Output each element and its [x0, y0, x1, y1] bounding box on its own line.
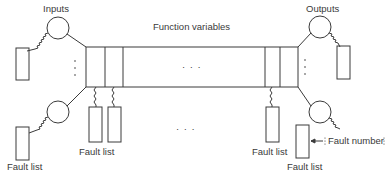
- fault-list-box-left-top: [16, 48, 29, 80]
- inputs-label: Inputs: [43, 4, 69, 14]
- fault-number-label: Fault number: [328, 136, 384, 146]
- fault-list-label-bottom-left: Fault list: [7, 162, 42, 172]
- connector-input-top: [67, 34, 86, 47]
- fault-list-box-middle-1: [89, 107, 102, 142]
- input-node-bottom: [47, 101, 69, 123]
- vertical-ellipsis-left: [74, 60, 76, 76]
- input-node-top: [47, 17, 69, 39]
- ellipsis-bottom: · · ·: [176, 124, 196, 134]
- fault-list-box-middle-2: [108, 107, 121, 142]
- outputs-label: Outputs: [306, 4, 339, 14]
- connector-output-bottom: [298, 87, 311, 106]
- connector-input-bottom: [67, 87, 86, 106]
- connector-output-top: [298, 33, 311, 47]
- arrow-head-icon: [311, 139, 315, 143]
- fault-list-label-bottom-right: Fault list: [287, 162, 322, 172]
- vertical-ellipsis-right: [304, 59, 306, 75]
- fault-list-box-middle-3: [266, 107, 279, 142]
- fault-list-label-middle-right: Fault list: [252, 147, 287, 157]
- fault-list-box-left-bottom: [16, 127, 29, 160]
- fault-list-label-middle-left: Fault list: [79, 147, 114, 157]
- output-node-bottom: [309, 101, 331, 123]
- wavy-link: [112, 87, 114, 107]
- wavy-link: [329, 33, 340, 47]
- wavy-link: [270, 87, 272, 107]
- wavy-link: [29, 117, 48, 133]
- ellipsis-center: · · ·: [182, 62, 202, 72]
- fault-list-box-right-bottom: [296, 125, 309, 158]
- function-variables-label: Function variables: [153, 22, 230, 32]
- wavy-link: [27, 33, 48, 51]
- fault-list-box-right-top: [337, 46, 350, 79]
- wavy-link: [94, 87, 96, 107]
- output-node-top: [309, 16, 331, 38]
- wavy-link: [329, 118, 340, 129]
